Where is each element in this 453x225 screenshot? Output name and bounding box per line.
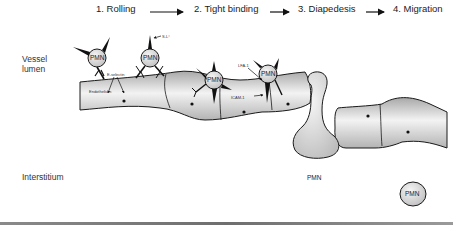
- endothelium-right: [335, 98, 447, 148]
- lfa-1-label: LFA-1: [238, 63, 249, 68]
- step-2-tight-binding: 2. Tight binding: [194, 3, 258, 14]
- step-4-migration: 4. Migration: [393, 3, 443, 14]
- pmn-label-1: PMN: [90, 54, 104, 61]
- pmn-label-3: PMN: [207, 76, 221, 83]
- step-3-diapedesis: 3. Diapedesis: [298, 3, 356, 14]
- leukocyte-extravasation-diagram: 1. Rolling 2. Tight binding 3. Diapedesi…: [0, 0, 453, 225]
- vessel-lumen-line1: Vessel: [22, 54, 47, 64]
- endothelium-label: Endothelium: [89, 89, 111, 94]
- s-l-label: S-L°: [162, 34, 170, 39]
- diagram-artwork: [0, 0, 453, 225]
- interstitium-label: Interstitium: [22, 172, 64, 182]
- icam-1-label: ICAM-1: [231, 95, 245, 100]
- vessel-lumen-line2: lumen: [22, 64, 47, 74]
- pmn-label-4: PMN: [261, 70, 275, 77]
- pmn-label-2: PMN: [143, 54, 157, 61]
- pmn-label-5: PMN: [307, 174, 321, 181]
- e-selectin-label: E-selectin: [107, 72, 125, 77]
- step-1-rolling: 1. Rolling: [96, 3, 136, 14]
- bottom-divider: [0, 222, 453, 225]
- pmn-label-6: PMN: [405, 190, 419, 197]
- vessel-lumen-label: Vessel lumen: [22, 54, 47, 74]
